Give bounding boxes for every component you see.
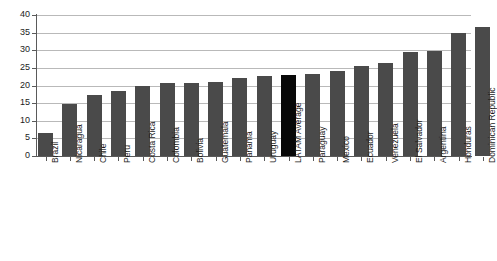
x-axis-tick [94,157,95,161]
x-axis-tick-label: El Salvador [414,120,424,163]
x-axis-tick [459,157,460,161]
x-axis-tick [46,157,47,161]
x-axis-tick-label: Peru [122,145,132,163]
gridline [37,15,471,16]
y-axis-tick [32,33,36,34]
y-axis-tick [32,86,36,87]
y-axis-tick-label: 10 [8,116,30,125]
x-axis-tick [361,157,362,161]
y-axis-tick-label: 0 [8,151,30,160]
x-axis-tick-label: Paraguay [317,127,327,163]
x-axis-tick-label: LATAM Average [293,103,303,163]
x-axis-tick-label: Colombia [171,127,181,163]
y-axis-tick-label: 30 [8,45,30,54]
x-axis-tick [70,157,71,161]
x-axis-tick-label: Honduras [463,126,473,163]
y-axis-tick [32,68,36,69]
y-axis-tick-label: 35 [8,28,30,37]
x-axis-tick [386,157,387,161]
y-axis-tick [32,121,36,122]
y-axis-tick [32,138,36,139]
x-axis-tick-label: Mexico [341,136,351,163]
y-axis-tick [32,15,36,16]
x-axis-tick-label: Argentina [438,127,448,163]
x-axis-tick-label: Chile [98,144,108,163]
gridline [37,33,471,34]
y-axis-tick [32,103,36,104]
x-axis-tick [264,157,265,161]
x-axis-tick-label: Uruguay [268,131,278,163]
x-axis-tick [337,157,338,161]
x-axis-tick [118,157,119,161]
y-axis-tick [32,50,36,51]
x-axis-tick [191,157,192,161]
y-axis-tick-label: 40 [8,10,30,19]
x-axis-tick-label: Brazil [50,142,60,163]
x-axis-tick-label: Ecuador [365,131,375,163]
x-axis-tick-label: Venezuela [390,123,400,163]
x-axis-tick-label: Costa Rica [147,121,157,163]
x-axis-tick-label: Guatemala [220,121,230,163]
y-axis-tick-label: 20 [8,81,30,90]
x-axis-tick [483,157,484,161]
x-axis-tick [216,157,217,161]
x-axis-tick [313,157,314,161]
y-axis-tick-label: 25 [8,63,30,72]
x-axis-tick-label: Nicaragua [74,124,84,163]
y-axis-tick-label: 15 [8,98,30,107]
y-axis-line [36,14,37,157]
x-axis-tick-label: Panama [244,131,254,163]
x-axis-tick-label: Bolivia [195,138,205,163]
x-axis-tick [240,157,241,161]
x-axis-tick [289,157,290,161]
x-axis-tick [143,157,144,161]
x-axis-tick [434,157,435,161]
y-axis-tick-label: 5 [8,133,30,142]
x-axis-tick-label: Dominican Republic [487,87,497,163]
x-axis-tick [410,157,411,161]
x-axis-tick [167,157,168,161]
